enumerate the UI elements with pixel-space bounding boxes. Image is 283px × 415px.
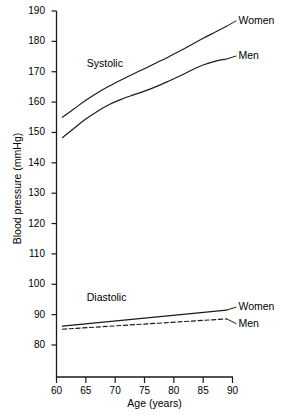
group-annotation-diastolic: Diastolic [87,292,127,303]
group-annotation-systolic: Systolic [87,58,123,69]
x-axis-title: Age (years) [0,398,283,409]
x-axis-tick-label: 60 [45,386,69,396]
series-line-systolic-men [62,59,226,138]
y-axis-tick-label: 170 [19,67,45,77]
y-axis-tick-label: 140 [19,158,45,168]
label-leader-lines [227,21,237,324]
series-line-systolic-women [62,26,226,117]
x-axis-tick-label: 85 [191,386,215,396]
y-axis-tick-label: 130 [19,188,45,198]
y-axis-tick-label: 160 [19,97,45,107]
data-series-lines [62,26,226,329]
series-end-label-diastolic-men: Men [238,318,258,329]
x-axis-tick-label: 90 [221,386,245,396]
y-axis-title-text: Blood pressure (mmHg) [11,133,23,244]
y-axis-title: Blood pressure (mmHg) [12,89,23,289]
x-axis-tick-label: 75 [133,386,157,396]
chart-plot-area [0,0,283,415]
y-axis-tick-label: 90 [19,310,45,320]
y-axis-tick-label: 150 [19,127,45,137]
x-axis-ticks [57,377,233,383]
x-axis-tick-label: 70 [103,386,127,396]
y-axis-tick-label: 120 [19,219,45,229]
y-axis-tick-label: 110 [19,249,45,259]
series-end-label-systolic-women: Women [238,15,274,26]
x-axis-tick-label: 80 [162,386,186,396]
x-axis-title-text: Age (years) [101,397,181,409]
y-axis-ticks [52,11,57,345]
y-axis-tick-label: 100 [19,279,45,289]
y-axis-tick-label: 190 [19,6,45,16]
y-axis-tick-label: 180 [19,36,45,46]
blood-pressure-chart-figure: 8090100110120130140150160170180190 60657… [0,0,283,415]
y-axis-tick-label: 80 [19,340,45,350]
series-end-label-diastolic-women: Women [238,301,274,312]
series-end-label-systolic-men: Men [238,50,258,61]
x-axis-tick-label: 65 [74,386,98,396]
